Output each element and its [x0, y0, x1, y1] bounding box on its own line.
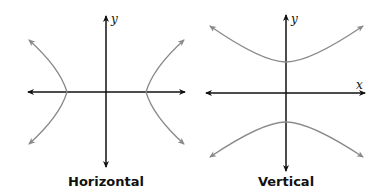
upper-branch — [210, 26, 286, 62]
lower-branch — [286, 122, 363, 157]
y-axis-label: y — [290, 12, 298, 26]
right-branch — [146, 92, 184, 144]
caption-horizontal: Horizontal — [56, 174, 156, 189]
y-axis-label: y — [110, 12, 118, 26]
x-axis-label: x — [356, 78, 363, 92]
left-branch — [29, 92, 67, 144]
lower-branch — [210, 122, 286, 157]
left-branch — [29, 40, 67, 92]
hyperbola-diagrams: y y x — [0, 0, 382, 192]
vertical-hyperbola-graph: y x — [206, 12, 365, 171]
upper-branch — [286, 26, 363, 62]
horizontal-hyperbola-graph: y — [28, 12, 185, 167]
caption-vertical: Vertical — [236, 174, 336, 189]
right-branch — [146, 40, 184, 92]
